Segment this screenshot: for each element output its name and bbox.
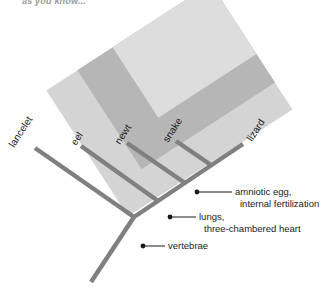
annotation-lungs: lungs, three-chambered heart — [168, 211, 301, 234]
annotation-amniotic-egg: amniotic egg, internal fertilization — [195, 186, 320, 209]
branch-root — [91, 217, 134, 282]
taxon-label-lancelet: lancelet — [6, 114, 34, 149]
node-dot-amniotic-egg — [195, 190, 200, 195]
node-dot-vertebrae — [141, 244, 146, 249]
annotation-label-lungs-line2: three-chambered heart — [204, 223, 301, 234]
cladogram-svg: lancelet eel newt snake lizard amniotic … — [0, 0, 326, 294]
annotation-label-lungs-line1: lungs, — [199, 211, 224, 222]
annotation-label-amniotic-egg-line1: amniotic egg, — [235, 186, 292, 197]
annotation-label-amniotic-egg-line2: internal fertilization — [240, 198, 319, 209]
annotation-vertebrae: vertebrae — [141, 240, 209, 251]
cladogram-figure: as you know... — [0, 0, 326, 294]
node-dot-lungs — [168, 215, 173, 220]
annotation-label-vertebrae: vertebrae — [168, 240, 208, 251]
